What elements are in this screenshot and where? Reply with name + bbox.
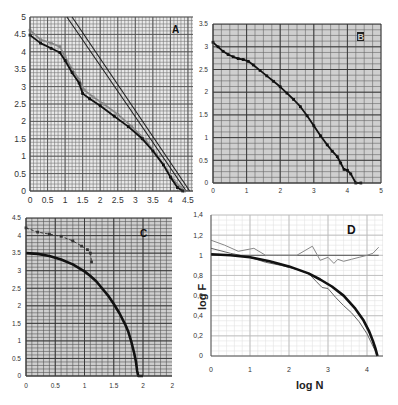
y-tick-label: 4.5 [14, 29, 26, 39]
data-point-marker [312, 124, 315, 127]
y-tick-label: 0.5 [199, 157, 208, 164]
y-tick-label: 1,2 [193, 232, 203, 239]
y-tick-label: 3.5 [14, 64, 26, 74]
y-tick-label: 1 [199, 252, 203, 259]
data-point-marker [92, 96, 95, 99]
data-point-marker [58, 45, 61, 48]
data-point-marker [113, 115, 116, 118]
data-point-marker [71, 71, 74, 74]
data-point-marker [151, 150, 154, 153]
y-tick-label: 2.5 [199, 66, 208, 73]
x-tick-label: 4 [346, 187, 350, 194]
y-tick-label: 1 [21, 151, 26, 161]
data-point-marker [217, 45, 220, 48]
y-tick-label: 1.5 [12, 320, 21, 327]
data-point-marker [78, 82, 81, 85]
x-tick-label: 0.5 [51, 382, 60, 389]
y-tick-label: 4.5 [12, 214, 21, 221]
data-point-marker [232, 55, 235, 58]
panel-d: 0123400,20,40,60,811,21,4 D log N log F [193, 211, 383, 391]
panel-c-label: C [140, 228, 147, 239]
x-tick-label: 4 [168, 195, 173, 205]
y-tick-label: 3 [17, 267, 21, 274]
data-point-marker [127, 125, 130, 128]
x-tick-label: 2.5 [112, 195, 124, 205]
data-point-marker [265, 74, 268, 77]
x-tick-label: 1 [83, 382, 87, 389]
x-tick-label: 3 [133, 195, 138, 205]
data-point-marker [71, 239, 74, 242]
data-point-marker [86, 248, 89, 251]
y-tick-label: 3 [21, 82, 26, 92]
x-tick-label: 1 [248, 366, 252, 373]
data-point-marker [83, 89, 86, 92]
data-point-marker [39, 42, 42, 45]
panel-d-xlabel: log N [296, 379, 324, 391]
x-tick-label: 3.5 [147, 195, 159, 205]
y-tick-label: 3.5 [199, 20, 208, 27]
y-tick-label: 2 [17, 302, 21, 309]
y-tick-label: 0,4 [193, 312, 203, 319]
y-tick-label: 1.5 [199, 111, 208, 118]
y-tick-label: 0,8 [193, 272, 203, 279]
data-point-marker [319, 134, 322, 137]
x-tick-label: 2 [170, 382, 174, 389]
data-point-marker [336, 155, 339, 158]
x-tick-label: 1 [63, 195, 68, 205]
data-point-marker [242, 58, 245, 61]
x-tick-label: 1.5 [109, 382, 118, 389]
figure-canvas: 00.511.522.533.544.500.511.522.533.544.5… [0, 0, 398, 405]
x-tick-label: 1.5 [77, 195, 89, 205]
y-tick-label: 0 [21, 186, 26, 196]
data-point-marker [252, 64, 255, 67]
y-tick-label: 0,2 [193, 332, 203, 339]
x-tick-label: 0 [24, 382, 28, 389]
data-point-marker [331, 150, 334, 153]
data-point-marker [89, 252, 92, 255]
data-point-marker [286, 92, 289, 95]
data-point-marker [279, 85, 282, 88]
data-point-marker [60, 235, 63, 238]
data-point-marker [90, 261, 93, 264]
x-tick-label: 2 [287, 366, 291, 373]
panel-b-label: B [358, 32, 365, 42]
data-point-marker [48, 233, 51, 236]
y-tick-label: 2.5 [14, 99, 26, 109]
y-tick-label: 3.5 [12, 249, 21, 256]
data-point-marker [81, 92, 84, 95]
y-tick-label: 0.5 [12, 355, 21, 362]
y-tick-label: 0 [199, 352, 203, 359]
y-tick-label: 4 [21, 47, 26, 57]
data-point-marker [272, 80, 275, 83]
x-tick-label: 0 [211, 187, 215, 194]
data-point-marker [292, 98, 295, 101]
data-point-marker [247, 60, 250, 63]
data-point-marker [50, 42, 53, 45]
y-tick-label: 4 [17, 232, 21, 239]
panel-a: 00.511.522.533.544.500.511.522.533.544.5… [14, 12, 194, 205]
data-point-marker [141, 137, 144, 140]
y-tick-label: 2 [204, 88, 208, 95]
data-point-marker [176, 186, 179, 189]
data-point-marker [50, 47, 53, 50]
data-point-marker [326, 143, 329, 146]
data-point-marker [102, 103, 105, 106]
panel-c-plot-area [26, 218, 172, 376]
data-point-marker [88, 97, 91, 100]
data-point-marker [259, 69, 262, 72]
data-point-marker [339, 162, 342, 165]
data-point-marker [64, 59, 67, 62]
x-tick-label: 2 [141, 382, 145, 389]
x-tick-label: 0.5 [42, 195, 54, 205]
data-point-marker [349, 173, 352, 176]
y-tick-label: 0 [17, 372, 21, 379]
panel-c: 00.511.52200.511.522.533.544.5 C [12, 214, 174, 389]
x-tick-label: 2 [278, 187, 282, 194]
x-tick-label: 3 [312, 187, 316, 194]
data-point-marker [162, 164, 165, 167]
x-tick-label: 1 [245, 187, 249, 194]
data-point-marker [299, 105, 302, 108]
y-tick-label: 5 [21, 12, 26, 22]
panel-d-label: D [347, 223, 356, 237]
y-tick-label: 3 [204, 43, 208, 50]
